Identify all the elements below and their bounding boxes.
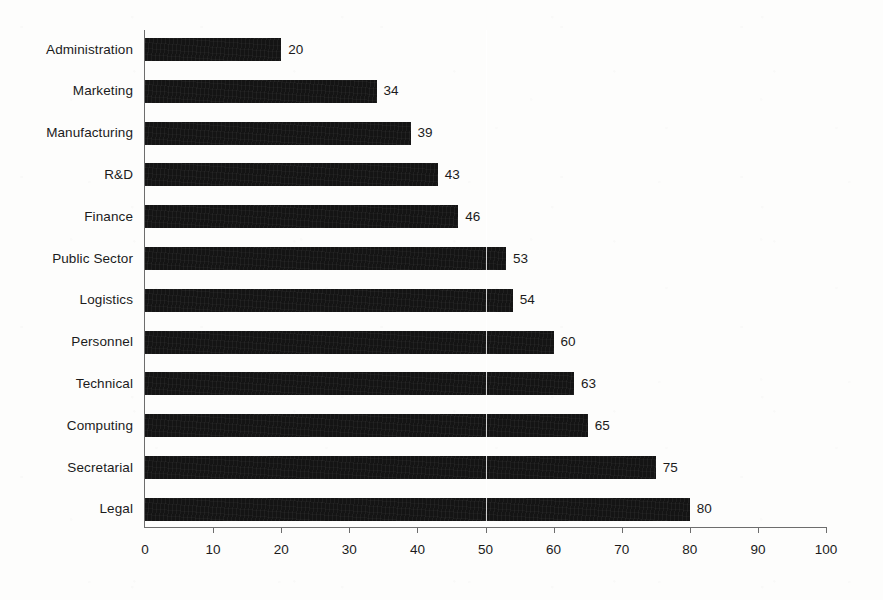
bar [145,498,690,521]
bar [145,122,411,145]
category-label: Marketing [73,84,133,98]
category-label: Logistics [80,293,133,307]
bar [145,289,513,312]
bar-texture [145,122,411,145]
x-axis-tick-label: 50 [456,543,516,557]
x-axis-tick-label: 90 [728,543,788,557]
bar-value-label: 75 [663,461,678,475]
x-axis-tick-label: 70 [592,543,652,557]
bar [145,163,438,186]
category-label: Computing [67,419,133,433]
bar-value-label: 60 [561,335,576,349]
category-label: R&D [104,168,133,182]
category-label: Legal [99,502,133,516]
bar-texture [145,205,458,228]
category-label: Manufacturing [46,126,133,140]
bar [145,414,588,437]
y-axis-line [144,30,145,527]
bar-value-label: 53 [513,252,528,266]
bar-texture [145,414,588,437]
x-axis-tick-label: 20 [251,543,311,557]
category-label: Public Sector [52,252,133,266]
x-axis-tick [690,527,691,533]
category-label: Technical [76,377,133,391]
bar [145,38,281,61]
x-axis-tick-label: 80 [660,543,720,557]
bar-texture [145,163,438,186]
bar-value-label: 34 [384,84,399,98]
category-label: Personnel [71,335,133,349]
x-axis-tick [281,527,282,533]
bar [145,456,656,479]
x-axis-tick-label: 40 [387,543,447,557]
x-axis-tick [826,527,827,533]
gridline [486,30,487,527]
x-axis-tick [554,527,555,533]
x-axis-tick [213,527,214,533]
x-axis-tick-label: 10 [183,543,243,557]
x-axis-tick [486,527,487,533]
bar [145,247,506,270]
bar-value-label: 46 [465,210,480,224]
bar-value-label: 20 [288,43,303,57]
bar-texture [145,80,377,103]
bar-texture [145,289,513,312]
category-label: Administration [46,43,133,57]
x-axis-tick-label: 0 [115,543,175,557]
x-axis-tick-label: 30 [319,543,379,557]
bar-texture [145,498,690,521]
plot-area: Administration20Marketing34Manufacturing… [0,0,883,600]
bar-texture [145,247,506,270]
bar [145,205,458,228]
bar-value-label: 65 [595,419,610,433]
category-label: Finance [84,210,133,224]
bar-value-label: 54 [520,293,535,307]
bar [145,80,377,103]
bar-value-label: 39 [418,126,433,140]
x-axis-tick [349,527,350,533]
x-axis-tick [758,527,759,533]
bar-chart: Administration20Marketing34Manufacturing… [0,0,883,600]
bar-value-label: 80 [697,502,712,516]
bar-texture [145,38,281,61]
bar-value-label: 43 [445,168,460,182]
x-axis-tick [417,527,418,533]
bar-texture [145,331,554,354]
bar-texture [145,372,574,395]
x-axis-tick-label: 60 [524,543,584,557]
x-axis-tick-label: 100 [796,543,856,557]
bar-texture [145,456,656,479]
bar [145,372,574,395]
bar [145,331,554,354]
category-label: Secretarial [67,461,133,475]
bar-value-label: 63 [581,377,596,391]
x-axis-tick [622,527,623,533]
